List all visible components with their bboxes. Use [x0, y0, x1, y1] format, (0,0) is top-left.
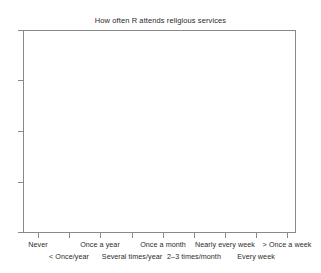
- x-axis-tick-label: < Once/year: [49, 252, 89, 261]
- y-axis-tick: [18, 30, 23, 31]
- y-axis-tick: [18, 232, 23, 233]
- x-axis-tick: [132, 233, 133, 238]
- x-axis-tick-label: 2–3 times/month: [167, 252, 221, 261]
- chart-figure: How often R attends religious services N…: [0, 0, 321, 273]
- x-axis-tick: [256, 233, 257, 238]
- x-axis-tick-label: > Once a week: [263, 240, 312, 249]
- x-axis-tick: [225, 233, 226, 238]
- x-axis-tick: [287, 233, 288, 238]
- y-axis-tick: [18, 182, 23, 183]
- chart-title: How often R attends religious services: [0, 16, 321, 25]
- y-axis-tick: [18, 80, 23, 81]
- plot-region: [24, 31, 295, 232]
- x-axis-tick: [163, 233, 164, 238]
- x-axis-tick: [38, 233, 39, 238]
- x-axis-tick-label: Every week: [237, 252, 275, 261]
- x-axis-tick-label: Several times/year: [102, 252, 162, 261]
- x-axis-tick: [69, 233, 70, 238]
- y-axis-tick: [18, 131, 23, 132]
- x-axis-tick-label: Once a year: [80, 240, 120, 249]
- x-axis-tick: [100, 233, 101, 238]
- x-axis-tick-label: Once a month: [140, 240, 186, 249]
- x-axis-tick-label: Nearly every week: [195, 240, 255, 249]
- x-axis-tick-label: Never: [28, 240, 47, 249]
- x-axis-tick: [194, 233, 195, 238]
